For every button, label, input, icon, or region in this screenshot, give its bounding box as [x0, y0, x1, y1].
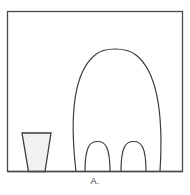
figure-caption: A.	[0, 175, 190, 187]
figure-panel: A.	[0, 0, 190, 195]
line-drawing-canvas	[0, 0, 190, 195]
